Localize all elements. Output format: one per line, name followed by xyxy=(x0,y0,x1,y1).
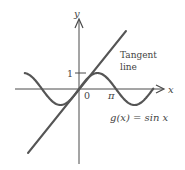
x-tick-label-pi: π xyxy=(107,90,115,101)
tangent-label-line2: line xyxy=(120,62,137,72)
function-label: g(x) = sin x xyxy=(110,112,169,123)
tangent-label-line1: Tangent xyxy=(120,50,157,60)
x-axis-label: x xyxy=(168,84,174,95)
origin-label: 0 xyxy=(84,90,90,101)
y-axis-label: y xyxy=(73,8,80,19)
y-tick-label-1: 1 xyxy=(67,68,73,79)
sine-tangent-figure: y x 1 0 π Tangent line g(x) = sin x xyxy=(0,0,185,170)
plot-canvas: y x 1 0 π Tangent line g(x) = sin x xyxy=(0,0,185,170)
